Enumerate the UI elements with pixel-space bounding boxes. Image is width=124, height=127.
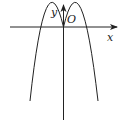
origin-label: O	[67, 13, 76, 26]
graph-canvas: y O x	[0, 0, 124, 127]
y-axis-label: y	[50, 6, 58, 19]
x-axis-label: x	[107, 31, 114, 44]
